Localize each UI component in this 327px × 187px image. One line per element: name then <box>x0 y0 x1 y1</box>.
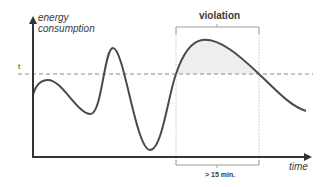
duration-label: > 15 min. <box>205 171 235 178</box>
y-axis-label-line1: energy <box>38 12 69 23</box>
duration-bracket <box>176 160 259 168</box>
x-axis-label: time <box>289 161 308 172</box>
violation-label: violation <box>199 10 240 21</box>
violation-bracket <box>176 24 259 34</box>
energy-curve <box>33 40 306 150</box>
y-axis-arrow-icon <box>29 16 37 24</box>
threshold-label: t <box>18 62 20 71</box>
y-axis-label-line2: consumption <box>38 23 95 34</box>
x-axis-arrow-icon <box>304 153 312 161</box>
violation-shaded-area <box>176 40 259 74</box>
